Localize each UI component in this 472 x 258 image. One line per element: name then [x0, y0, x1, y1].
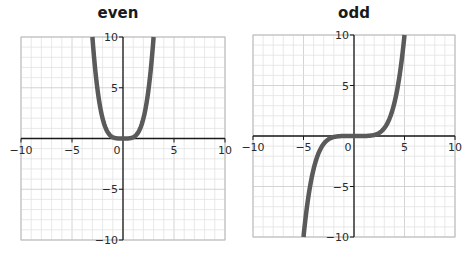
even-chart-panel: even −10−50510105−5−10 [0, 0, 236, 258]
odd-chart-plot: −10−50510105−5−10 [236, 0, 472, 258]
y-tick-label: 10 [335, 29, 349, 42]
x-tick-label: 5 [171, 144, 178, 157]
x-tick-label: −5 [295, 141, 311, 154]
y-tick-label: −10 [326, 231, 349, 244]
odd-chart-panel: odd −10−50510105−5−10 [236, 0, 472, 258]
x-tick-label: −5 [64, 144, 80, 157]
x-tick-label: 10 [448, 141, 462, 154]
y-tick-label: 5 [342, 80, 349, 93]
y-tick-label: 5 [111, 82, 118, 95]
x-tick-label: −10 [9, 144, 32, 157]
x-tick-label: 0 [114, 144, 121, 157]
even-chart-plot: −10−50510105−5−10 [0, 0, 236, 258]
x-tick-label: −10 [241, 141, 264, 154]
x-tick-label: 10 [218, 144, 232, 157]
x-tick-label: 0 [345, 141, 352, 154]
x-tick-label: 5 [401, 141, 408, 154]
y-tick-label: −5 [102, 183, 118, 196]
y-tick-label: −5 [333, 181, 349, 194]
y-tick-label: 10 [104, 31, 118, 44]
y-tick-label: −10 [95, 234, 118, 247]
